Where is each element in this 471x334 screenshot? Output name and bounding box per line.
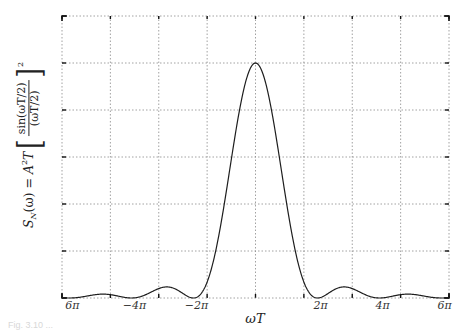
right-bracket: ] <box>13 68 44 77</box>
x-tick-label: 2π <box>312 299 328 312</box>
x-axis-label: ωT <box>245 311 266 326</box>
ylabel-coef-power: 2 <box>20 160 29 165</box>
ylabel-subscript: N <box>29 212 38 219</box>
figure-caption: Fig. 3.10 ... <box>8 320 53 330</box>
x-tick-label: 4π <box>374 299 390 312</box>
y-axis-label: SN(ω) = A2T [ sin(ωT/2) (ωT/2) ] 2 <box>12 40 46 250</box>
sinc-squared-chart: 6π−4π−2π2π4π6π ωT <box>0 0 471 334</box>
x-tick-label: 6π <box>437 299 452 312</box>
ylabel-power: 2 <box>16 62 25 67</box>
x-tick-label: 6π <box>65 299 80 312</box>
corner-top-left <box>62 16 67 21</box>
ylabel-symbol: S <box>20 219 35 228</box>
corner-top-right <box>444 16 449 21</box>
fraction-denominator: (ωT/2) <box>30 91 42 127</box>
ylabel-arg: (ω) = <box>20 174 35 212</box>
x-tick-label: −2π <box>185 299 209 312</box>
ylabel-fraction: sin(ωT/2) (ωT/2) <box>16 80 41 136</box>
x-tick-label: −4π <box>123 299 147 312</box>
left-bracket: [ <box>13 139 44 148</box>
grid-lines <box>62 16 449 298</box>
ylabel-coef: A <box>20 165 35 174</box>
ylabel-coef-tail: T <box>20 152 35 160</box>
